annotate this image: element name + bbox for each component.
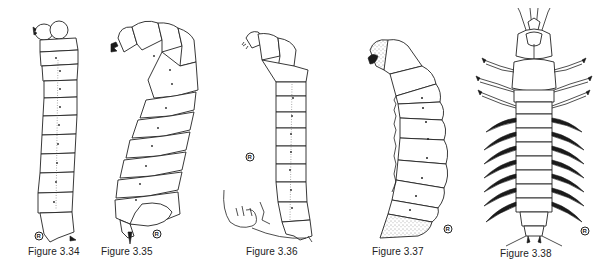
larva-illustration-3-36: R bbox=[200, 0, 330, 250]
figure-3-34: R Figure 3.34 bbox=[0, 0, 90, 268]
figure-caption: Figure 3.37 bbox=[372, 246, 424, 257]
figure-3-38: R Figure 3.38 bbox=[470, 0, 609, 268]
figure-caption: Figure 3.35 bbox=[101, 246, 153, 257]
larva-illustration-3-38: R bbox=[470, 0, 609, 250]
svg-text:R: R bbox=[37, 233, 42, 239]
figure-3-35: R Figure 3.35 bbox=[90, 0, 200, 268]
figure-3-36: R Figure 3.36 bbox=[200, 0, 330, 268]
registered-mark-icon: R bbox=[246, 153, 254, 161]
figure-caption: Figure 3.38 bbox=[500, 248, 552, 259]
larva-illustration-3-35: R bbox=[90, 0, 200, 250]
registered-mark-icon: R bbox=[581, 227, 589, 235]
figure-plate: R Figure 3.34 bbox=[0, 0, 609, 268]
registered-mark-icon: R bbox=[444, 225, 452, 233]
svg-text:R: R bbox=[155, 231, 160, 237]
larva-illustration-3-34: R bbox=[0, 0, 90, 250]
registered-mark-icon: R bbox=[153, 230, 161, 238]
larva-illustration-3-37: R bbox=[330, 0, 470, 250]
figure-3-37: R Figure 3.37 bbox=[330, 0, 470, 268]
svg-text:R: R bbox=[248, 154, 253, 160]
figure-caption: Figure 3.36 bbox=[246, 246, 298, 257]
svg-text:R: R bbox=[446, 226, 451, 232]
figure-caption: Figure 3.34 bbox=[28, 246, 80, 257]
svg-text:R: R bbox=[583, 228, 588, 234]
registered-mark-icon: R bbox=[35, 232, 43, 240]
